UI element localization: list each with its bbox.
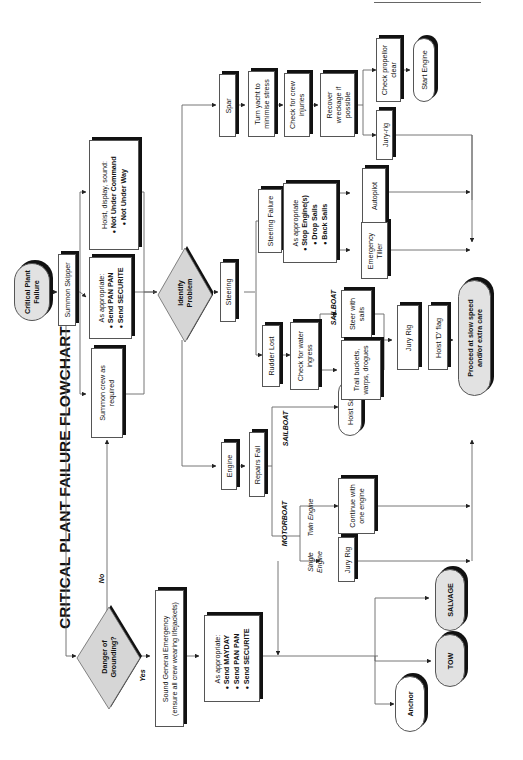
send-mayday-box: As appropriate: Send MAYDAY Send PAN PAN… <box>204 615 260 702</box>
anchor-terminal: Anchor <box>395 676 425 732</box>
edge-label-sailboat-rudder: SAILBOAT <box>330 290 337 325</box>
rudder-lost-box: Rudder Lost <box>262 325 280 387</box>
jury-rig-rudder-box: Jury Rig <box>397 305 419 370</box>
stop-engines-box: As appropriate Stop Engine(s) Drop Sails… <box>283 183 337 263</box>
edge-label-yes: Yes <box>139 669 146 681</box>
spar-box: Spar <box>219 74 236 137</box>
start-terminal: Critical Plant Failure <box>14 263 50 321</box>
edge-label-single-engine: Single Engine <box>306 542 324 582</box>
jury-rig-engine-box: Jury Rig <box>338 537 355 582</box>
identify-problem-label: Identify Problem <box>176 273 194 313</box>
edge-label-sailboat-engine: SAILBOAT <box>282 411 289 446</box>
check-water-box: Check for water ingress <box>290 322 319 390</box>
hoist-d-flag-box: Hoist 'D' flag <box>428 305 448 370</box>
steering-box: Steering <box>220 262 236 322</box>
turn-yacht-box: Turn yacht to minimise stress <box>248 71 275 137</box>
summon-skipper-box: Summon Skipper <box>58 254 76 326</box>
check-crew-box: Check for crew injuries <box>284 73 310 137</box>
edge-label-motorboat: MOTORBOAT <box>281 501 288 546</box>
autopilot-box: Autopilot <box>362 168 386 223</box>
steer-with-sails-box: Steer with sails <box>341 290 372 338</box>
jury-rig-spar-box: Jury-rig <box>376 110 393 160</box>
emergency-tiller-box: Emergency Tiller <box>361 222 388 279</box>
summon-crew-box: Summon crew as required <box>91 348 123 438</box>
edge-label-no: No <box>98 574 105 583</box>
repairs-fail-box: Repairs Fail <box>249 432 265 497</box>
recover-wreckage-box: Recover wreckage if possible <box>320 73 355 137</box>
steering-failure-box: Steering Failure <box>258 189 282 253</box>
check-propellor-box: Check propellor clear <box>376 38 401 102</box>
continue-one-engine-box: Continue with one engine <box>338 478 375 534</box>
start-engine-terminal: Start Engine <box>413 38 435 102</box>
edge-label-twin-engine: Twin Engine <box>306 498 315 538</box>
salvage-terminal: SALVAGE <box>435 569 465 631</box>
hoist-display-box: Hoist, display, sound: Not Under Command… <box>89 140 139 250</box>
tow-terminal: TOW <box>435 634 465 687</box>
trail-buckets-box: Trail buckets, warps, drogues <box>341 340 381 400</box>
send-panpan-box: As appropriate: Send PAN PAN Send SECURI… <box>89 257 132 339</box>
engine-box: Engine <box>221 442 237 490</box>
proceed-terminal: Proceed at slow speed and/or extra care <box>458 280 491 396</box>
danger-grounding-label: Danger of Grounding? <box>100 632 118 682</box>
sound-general-box: Sound General Emergency (ensure all crew… <box>155 590 184 727</box>
